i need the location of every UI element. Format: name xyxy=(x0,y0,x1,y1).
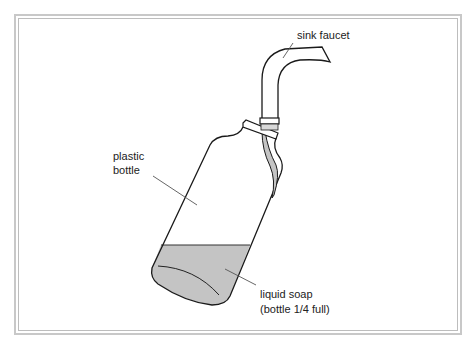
label-bottle-quarter-full: (bottle 1/4 full) xyxy=(260,303,330,315)
liquid-soap xyxy=(152,245,251,305)
sink-faucet xyxy=(262,47,330,119)
faucet-collar xyxy=(260,118,279,124)
bottle-leader xyxy=(153,176,197,205)
label-plastic: plastic xyxy=(113,150,145,162)
label-bottle: bottle xyxy=(113,164,140,176)
label-sink-faucet: sink faucet xyxy=(297,29,350,41)
faucet-collar-lower xyxy=(261,124,278,130)
label-liquid-soap: liquid soap xyxy=(260,288,313,300)
diagram-canvas: sink faucet plastic bottle liquid soap (… xyxy=(0,0,475,350)
